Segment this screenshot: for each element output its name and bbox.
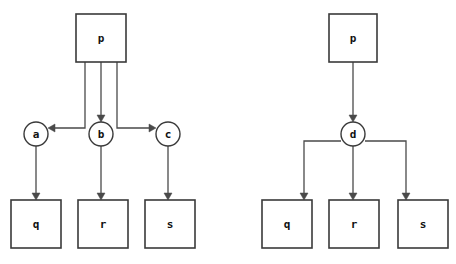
edge-path — [52, 62, 85, 128]
diagram-canvas: pabcqrspdqrs — [0, 0, 456, 264]
node-label: q — [33, 218, 40, 231]
diagram-surface: pabcqrspdqrs — [0, 0, 456, 264]
render-layer: pabcqrspdqrs — [11, 14, 448, 248]
fan-out-through-single-intermediate: pdqrs — [262, 14, 448, 248]
arrowhead-icon — [97, 115, 105, 122]
arrowhead-icon — [149, 124, 156, 132]
node-label: p — [98, 32, 105, 45]
arrowhead-icon — [164, 193, 172, 200]
edge-path — [365, 141, 406, 196]
node-r-rect[interactable]: r — [78, 200, 128, 248]
edge-b-to-r — [97, 146, 105, 200]
node-label: s — [167, 218, 174, 231]
node-c-circle[interactable]: c — [156, 122, 180, 146]
arrowhead-icon — [32, 193, 40, 200]
edge-a-to-q — [32, 146, 40, 200]
edge-p-to-d — [349, 62, 357, 122]
edge-c-to-s — [164, 146, 172, 200]
arrowhead-icon — [300, 193, 308, 200]
node-label: s — [420, 218, 427, 231]
node-d-circle[interactable]: d — [341, 122, 365, 146]
node-q-rect[interactable]: q — [262, 200, 312, 248]
node-p-rect[interactable]: p — [329, 14, 377, 62]
arrowhead-icon — [402, 193, 410, 200]
node-a-circle[interactable]: a — [24, 122, 48, 146]
edge-p-to-b — [97, 62, 105, 122]
arrowhead-icon — [48, 124, 55, 132]
node-label: r — [100, 218, 107, 231]
node-label: b — [98, 128, 105, 141]
node-b-circle[interactable]: b — [89, 122, 113, 146]
node-label: p — [350, 32, 357, 45]
node-label: r — [351, 218, 358, 231]
node-label: d — [350, 128, 357, 141]
node-s-rect[interactable]: s — [145, 200, 195, 248]
edge-path — [304, 141, 341, 196]
arrowhead-icon — [349, 193, 357, 200]
edge-d-to-q — [300, 141, 341, 200]
edge-d-to-s — [365, 141, 410, 200]
edge-p-to-a — [48, 62, 85, 132]
node-r-rect[interactable]: r — [329, 200, 379, 248]
fan-out-through-three-intermediates: pabcqrs — [11, 14, 195, 248]
edge-d-to-r — [349, 146, 357, 200]
node-q-rect[interactable]: q — [11, 200, 61, 248]
node-label: q — [284, 218, 291, 231]
edge-p-to-c — [117, 62, 156, 132]
node-s-rect[interactable]: s — [398, 200, 448, 248]
node-label: a — [33, 128, 40, 141]
arrowhead-icon — [97, 193, 105, 200]
edge-path — [117, 62, 152, 128]
node-p-rect[interactable]: p — [76, 14, 126, 62]
arrowhead-icon — [349, 115, 357, 122]
node-label: c — [165, 128, 172, 141]
